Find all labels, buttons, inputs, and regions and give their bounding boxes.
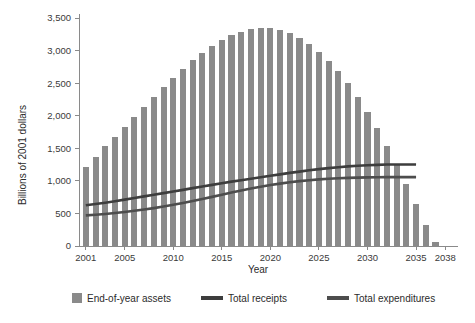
x-axis-tick-labels: 200120052010201520202025203020352038	[75, 252, 456, 263]
bar-2012	[190, 60, 196, 246]
x-tick-label-2035: 2035	[406, 252, 427, 263]
bar-2002	[93, 157, 99, 246]
y-axis-title: Billions of 2001 dollars	[17, 105, 28, 205]
bar-2019	[258, 28, 264, 246]
bar-2032	[384, 146, 390, 246]
y-tick-label-0: 0	[66, 240, 71, 251]
y-tick-label-1000: 1,000	[47, 175, 71, 186]
bar-2004	[112, 137, 118, 246]
legend-label-total-receipts: Total receipts	[228, 293, 287, 304]
bar-2036	[423, 225, 429, 246]
x-tick-label-2001: 2001	[75, 252, 96, 263]
chart-legend: End-of-year assetsTotal receiptsTotal ex…	[72, 293, 435, 304]
x-axis-title: Year	[248, 264, 269, 275]
bar-2026	[326, 61, 332, 246]
bars-group	[83, 28, 439, 246]
legend-label-total-expenditures: Total expenditures	[354, 293, 435, 304]
y-axis-tick-labels: 05001,0001,5002,0002,5003,0003,500	[47, 12, 71, 251]
chart-canvas: 05001,0001,5002,0002,5003,0003,500 20012…	[0, 0, 475, 323]
y-tick-label-3000: 3,000	[47, 45, 71, 56]
bar-2022	[287, 33, 293, 246]
bar-2010	[170, 78, 176, 246]
y-tick-label-1500: 1,500	[47, 143, 71, 154]
x-tick-label-2038: 2038	[435, 252, 456, 263]
legend-swatch-total-receipts	[201, 296, 223, 300]
bar-2011	[180, 69, 186, 246]
x-tick-label-2010: 2010	[163, 252, 184, 263]
bar-2024	[306, 44, 312, 246]
y-tick-label-2000: 2,000	[47, 110, 71, 121]
bar-2037	[432, 242, 438, 246]
bar-2028	[345, 83, 351, 246]
bar-2035	[413, 204, 419, 246]
bar-2009	[161, 87, 167, 246]
bar-2018	[248, 29, 254, 246]
legend-label-end-of-year-assets: End-of-year assets	[87, 293, 171, 304]
bar-2006	[131, 117, 137, 246]
legend-swatch-end-of-year-assets	[72, 293, 82, 303]
bar-2025	[316, 52, 322, 246]
bar-2015	[219, 40, 225, 246]
bar-2017	[238, 32, 244, 246]
chart-figure: 05001,0001,5002,0002,5003,0003,500 20012…	[0, 0, 475, 323]
bar-2001	[83, 167, 89, 246]
bar-2014	[209, 46, 215, 246]
bar-2021	[277, 30, 283, 246]
bar-2030	[364, 112, 370, 246]
y-tick-label-500: 500	[55, 208, 71, 219]
y-tick-label-3500: 3,500	[47, 12, 71, 23]
bar-2005	[122, 127, 128, 246]
bar-2016	[228, 35, 234, 246]
bar-2003	[102, 146, 108, 246]
y-tick-label-2500: 2,500	[47, 78, 71, 89]
x-tick-label-2005: 2005	[114, 252, 135, 263]
legend-swatch-total-expenditures	[327, 296, 349, 300]
bar-2027	[335, 71, 341, 246]
bar-2020	[267, 28, 273, 246]
x-tick-label-2025: 2025	[308, 252, 329, 263]
bar-2029	[355, 97, 361, 246]
x-tick-label-2020: 2020	[260, 252, 281, 263]
bar-2034	[403, 184, 409, 246]
bar-2007	[141, 107, 147, 246]
x-tick-label-2015: 2015	[211, 252, 232, 263]
bar-2031	[374, 128, 380, 246]
bar-2023	[296, 38, 302, 246]
x-tick-label-2030: 2030	[357, 252, 378, 263]
bar-2008	[151, 97, 157, 246]
bar-2013	[199, 53, 205, 246]
